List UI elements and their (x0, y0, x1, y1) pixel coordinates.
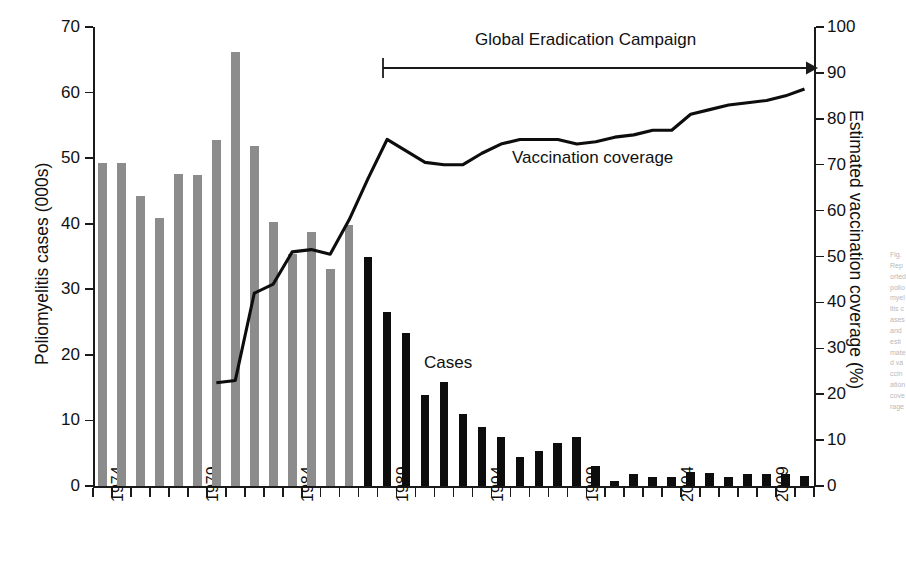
y-tick-label-right: 80 (827, 110, 867, 127)
bar-cases-pre-campaign[interactable] (231, 52, 240, 486)
bar-cases-campaign[interactable] (762, 474, 771, 486)
x-tick (434, 488, 436, 497)
y-tick-right (816, 348, 824, 350)
y-tick-right (816, 164, 824, 166)
y-tick-label-right: 60 (827, 202, 867, 219)
bar-cases-campaign[interactable] (440, 382, 449, 486)
x-tick (756, 488, 758, 497)
x-tick (282, 488, 284, 497)
bar-cases-pre-campaign[interactable] (136, 196, 145, 486)
bar-cases-pre-campaign[interactable] (345, 225, 354, 486)
y-tick-right (816, 26, 824, 28)
y-tick-label-right: 10 (827, 431, 867, 448)
bar-cases-campaign[interactable] (743, 474, 752, 486)
bar-cases-campaign[interactable] (383, 312, 392, 486)
bar-cases-campaign[interactable] (667, 477, 676, 486)
bar-cases-pre-campaign[interactable] (117, 163, 126, 486)
y-tick-label-left: 30 (35, 280, 80, 297)
bar-cases-pre-campaign[interactable] (174, 174, 183, 486)
x-tick (642, 488, 644, 497)
bar-cases-campaign[interactable] (516, 457, 525, 486)
cases-series-label: Cases (424, 353, 472, 373)
edge-caption: Fig. Reported poliomyelitis cases and es… (890, 250, 906, 480)
y-tick-label-right: 100 (827, 18, 867, 35)
bar-cases-campaign[interactable] (610, 481, 619, 486)
y-tick-right (816, 302, 824, 304)
x-tick (339, 488, 341, 497)
x-tick (244, 488, 246, 497)
bar-cases-campaign[interactable] (629, 474, 638, 486)
bar-cases-campaign[interactable] (478, 427, 487, 486)
x-tick (225, 488, 227, 497)
bar-cases-pre-campaign[interactable] (307, 232, 316, 486)
x-tick (529, 488, 531, 497)
x-tick (813, 488, 815, 497)
bar-cases-pre-campaign[interactable] (269, 222, 278, 486)
x-tick (472, 488, 474, 497)
y-tick-label-right: 0 (827, 477, 867, 494)
y-tick-left (85, 420, 93, 422)
x-tick (567, 488, 569, 497)
x-tick (699, 488, 701, 497)
x-tick (377, 488, 379, 497)
bar-cases-campaign[interactable] (591, 466, 600, 486)
bar-cases-pre-campaign[interactable] (193, 175, 202, 486)
y-tick-label-right: 70 (827, 156, 867, 173)
x-tick (548, 488, 550, 497)
y-tick-label-right: 40 (827, 293, 867, 310)
campaign-annotation-label: Global Eradication Campaign (475, 30, 696, 50)
y-tick-label-right: 20 (827, 385, 867, 402)
y-axis-left-line (93, 27, 95, 487)
y-tick-right (816, 485, 824, 487)
x-tick (453, 488, 455, 497)
y-tick-right (816, 256, 824, 258)
bar-cases-campaign[interactable] (553, 443, 562, 486)
x-tick (718, 488, 720, 497)
bar-cases-pre-campaign[interactable] (250, 146, 259, 486)
y-tick-right (816, 393, 824, 395)
y-tick-label-right: 50 (827, 248, 867, 265)
bar-cases-campaign[interactable] (572, 437, 581, 486)
campaign-arrow-icon (383, 58, 818, 78)
x-tick (415, 488, 417, 497)
bar-cases-campaign[interactable] (459, 414, 468, 486)
bar-cases-campaign[interactable] (497, 437, 506, 486)
bar-cases-pre-campaign[interactable] (288, 254, 297, 486)
bar-cases-pre-campaign[interactable] (212, 140, 221, 486)
bar-cases-pre-campaign[interactable] (155, 218, 164, 486)
y-tick-right (816, 72, 824, 74)
bar-cases-campaign[interactable] (705, 473, 714, 486)
x-tick (149, 488, 151, 497)
coverage-series-label: Vaccination coverage (512, 148, 673, 168)
bar-cases-campaign[interactable] (781, 474, 790, 486)
x-tick (320, 488, 322, 497)
bar-cases-campaign[interactable] (402, 333, 411, 486)
y-tick-label-left: 0 (35, 477, 80, 494)
bar-cases-campaign[interactable] (364, 257, 373, 486)
y-tick-right (816, 118, 824, 120)
y-tick-right (816, 439, 824, 441)
x-tick (794, 488, 796, 497)
x-tick (263, 488, 265, 497)
x-tick (358, 488, 360, 497)
y-tick-label-left: 70 (35, 18, 80, 35)
bar-cases-campaign[interactable] (724, 477, 733, 486)
y-tick-label-left: 50 (35, 149, 80, 166)
bar-cases-pre-campaign[interactable] (98, 163, 107, 486)
bar-cases-campaign[interactable] (421, 395, 430, 486)
y-tick-label-left: 10 (35, 411, 80, 428)
y-tick-left (85, 26, 93, 28)
x-tick (130, 488, 132, 497)
bar-cases-pre-campaign[interactable] (326, 269, 335, 486)
y-tick-left (85, 288, 93, 290)
x-tick (661, 488, 663, 497)
bar-cases-campaign[interactable] (535, 451, 544, 486)
bar-cases-campaign[interactable] (648, 477, 657, 486)
bar-cases-campaign[interactable] (686, 472, 695, 486)
y-tick-left (85, 485, 93, 487)
y-tick-label-left: 40 (35, 215, 80, 232)
bar-cases-campaign[interactable] (800, 476, 809, 486)
x-tick (187, 488, 189, 497)
y-tick-right (816, 210, 824, 212)
